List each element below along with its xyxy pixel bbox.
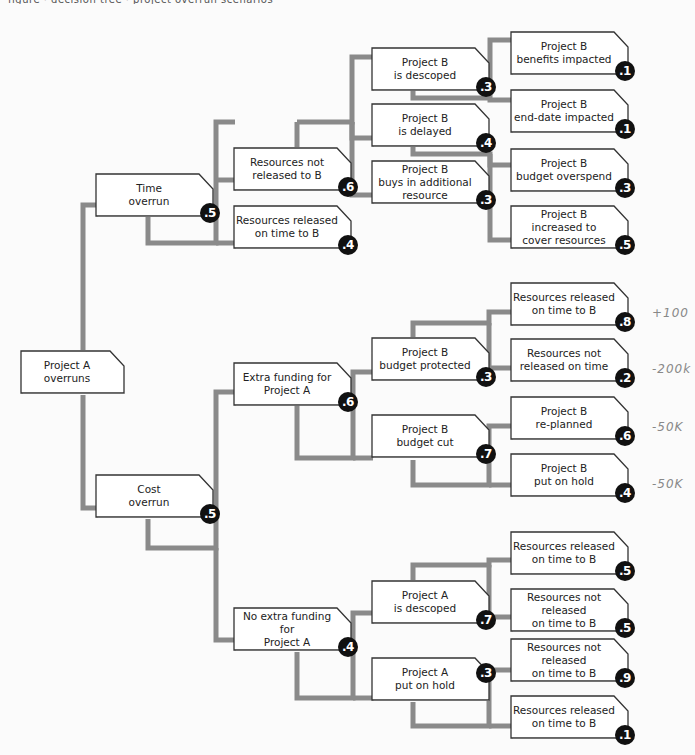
node-label: Time overrun bbox=[97, 173, 201, 217]
node-extra-funding-for-a: Extra funding for Project A .6 bbox=[233, 362, 353, 406]
node-no-extra-funding-for-a: No extra funding for Project A .4 bbox=[233, 607, 353, 651]
probability-badge: .4 bbox=[338, 637, 358, 657]
probability-badge: .3 bbox=[476, 77, 496, 97]
probability-badge: .4 bbox=[476, 133, 496, 153]
node-b-is-delayed: Project B is delayed .4 bbox=[371, 103, 491, 147]
probability-badge: .7 bbox=[476, 444, 496, 464]
node-resources-not-released-to-b: Resources not released to B .6 bbox=[233, 147, 353, 191]
probability-badge: .9 bbox=[615, 668, 635, 688]
node-label: Project B re-planned bbox=[512, 396, 616, 440]
probability-badge: .8 bbox=[615, 312, 635, 332]
node-project-a-overruns: Project A overruns bbox=[20, 350, 126, 394]
connector-segment bbox=[413, 312, 512, 337]
probability-badge: .5 bbox=[615, 235, 635, 255]
handwritten-annotation: +100 bbox=[652, 306, 689, 320]
node-label: Project B is descoped bbox=[373, 47, 477, 91]
probability-badge: .5 bbox=[615, 618, 635, 638]
handwritten-annotation: -50K bbox=[652, 477, 683, 491]
node-label: Resources not released on time bbox=[512, 338, 616, 382]
node-label: Project B end-date impacted bbox=[512, 89, 616, 133]
node-label: Resources released on time to B bbox=[512, 282, 616, 326]
node-b-budget-overspend: Project B budget overspend .3 bbox=[510, 148, 630, 192]
node-label: Project B is delayed bbox=[373, 103, 477, 147]
node-a-put-on-hold: Project A put on hold .3 bbox=[371, 657, 491, 701]
probability-badge: .4 bbox=[338, 235, 358, 255]
node-res-released-on-time-1: Resources released on time to B .8 bbox=[510, 282, 630, 326]
probability-badge: .3 bbox=[476, 367, 496, 387]
node-resources-released-on-time-to-b: Resources released on time to B .4 bbox=[233, 205, 353, 249]
node-label: Project A put on hold bbox=[373, 657, 477, 701]
node-label: Resources released on time to B bbox=[512, 531, 616, 575]
node-label: Project A overruns bbox=[22, 350, 112, 394]
node-b-end-date-impacted: Project B end-date impacted .1 bbox=[510, 89, 630, 133]
probability-badge: .6 bbox=[338, 392, 358, 412]
handwritten-annotation: -50K bbox=[652, 420, 683, 434]
node-label: Resources released on time to B bbox=[235, 205, 339, 249]
probability-badge: .6 bbox=[338, 177, 358, 197]
node-res-not-released-on-time-1: Resources not released on time .2 bbox=[510, 338, 630, 382]
node-label: Project B buys in additional resource bbox=[373, 160, 477, 204]
probability-badge: .5 bbox=[200, 203, 220, 223]
node-cost-overrun: Cost overrun .5 bbox=[95, 474, 215, 518]
node-label: Resources not released on time to B bbox=[512, 638, 616, 682]
probability-badge: .2 bbox=[615, 368, 635, 388]
connector-segment bbox=[83, 205, 97, 350]
probability-badge: .4 bbox=[615, 483, 635, 503]
node-label: Project A is descoped bbox=[373, 580, 477, 624]
node-b-increased-to-cover: Project B increased to cover resources .… bbox=[510, 205, 630, 249]
node-b-buys-additional-resource: Project B buys in additional resource .3 bbox=[371, 160, 491, 204]
probability-badge: .3 bbox=[476, 663, 496, 683]
node-res-released-on-time-3: Resources released on time to B .1 bbox=[510, 695, 630, 739]
node-b-benefits-impacted: Project B benefits impacted .1 bbox=[510, 31, 630, 75]
node-b-is-descoped: Project B is descoped .3 bbox=[371, 47, 491, 91]
probability-badge: .7 bbox=[476, 610, 496, 630]
probability-badge: .3 bbox=[476, 190, 496, 210]
node-label: Project B budget protected bbox=[373, 337, 477, 381]
probability-badge: .1 bbox=[615, 119, 635, 139]
node-res-released-on-time-2: Resources released on time to B .5 bbox=[510, 531, 630, 575]
connector-segment bbox=[297, 57, 373, 122]
probability-badge: .5 bbox=[615, 561, 635, 581]
node-label: No extra funding for Project A bbox=[235, 607, 339, 651]
node-label: Project B budget overspend bbox=[512, 148, 616, 192]
node-label: Project B budget cut bbox=[373, 414, 477, 458]
probability-badge: .3 bbox=[615, 178, 635, 198]
node-res-not-released-on-time-2: Resources not released on time to B .5 bbox=[510, 588, 630, 632]
node-b-budget-cut: Project B budget cut .7 bbox=[371, 414, 491, 458]
node-b-re-planned: Project B re-planned .6 bbox=[510, 396, 630, 440]
connector-segment bbox=[352, 122, 373, 138]
connector-segment bbox=[489, 565, 512, 617]
connector-segment bbox=[413, 560, 512, 580]
node-label: Project B benefits impacted bbox=[512, 31, 616, 75]
probability-badge: .6 bbox=[615, 426, 635, 446]
probability-badge: .1 bbox=[615, 61, 635, 81]
connector-segment bbox=[148, 392, 235, 548]
node-b-put-on-hold: Project B put on hold .4 bbox=[510, 453, 630, 497]
node-label: Cost overrun bbox=[97, 474, 201, 518]
node-res-not-released-on-time-3: Resources not released on time to B .9 bbox=[510, 638, 630, 682]
probability-badge: .1 bbox=[615, 725, 635, 745]
node-label: Resources not released to B bbox=[235, 147, 339, 191]
node-time-overrun: Time overrun .5 bbox=[95, 173, 215, 217]
node-label: Project B put on hold bbox=[512, 453, 616, 497]
node-label: Resources released on time to B bbox=[512, 695, 616, 739]
node-a-is-descoped: Project A is descoped .7 bbox=[371, 580, 491, 624]
handwritten-annotation: -200k bbox=[652, 362, 691, 376]
probability-badge: .5 bbox=[200, 504, 220, 524]
node-label: Project B increased to cover resources bbox=[512, 205, 616, 249]
node-b-budget-protected: Project B budget protected .3 bbox=[371, 337, 491, 381]
node-label: Resources not released on time to B bbox=[512, 588, 616, 632]
node-label: Extra funding for Project A bbox=[235, 362, 339, 406]
connector-segment bbox=[490, 98, 512, 100]
connector-segment bbox=[489, 323, 512, 368]
